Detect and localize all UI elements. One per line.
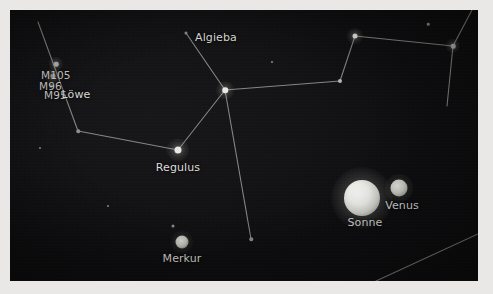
star-star-upper-mid[interactable]: [271, 61, 273, 63]
mercury-disc[interactable]: [176, 236, 189, 249]
star-node-lower-mid[interactable]: [249, 237, 253, 241]
star-zosma[interactable]: [353, 34, 358, 39]
star-star-top-right[interactable]: [427, 23, 430, 26]
star-chart-screenshot: AlgiebaM105M96M95LöweRegulusMerkurSonneV…: [0, 0, 493, 294]
star-star-lower-left[interactable]: [107, 205, 109, 207]
line-node-to-regulus: [78, 131, 178, 150]
star-denebola[interactable]: [451, 44, 456, 49]
star-star-mid-left[interactable]: [39, 147, 41, 149]
star-chort[interactable]: [338, 79, 342, 83]
star-node-lower-left[interactable]: [76, 129, 80, 133]
venus-disc[interactable]: [391, 180, 408, 197]
label-regulus: Regulus: [156, 162, 200, 174]
label-sonne: Sonne: [348, 217, 383, 229]
star-star-near-mercury[interactable]: [172, 225, 175, 228]
line-algieba-to-chort: [225, 81, 340, 90]
line-algieba-to-lower: [225, 90, 251, 239]
star-eta-leonis[interactable]: [185, 32, 188, 35]
star-algieba[interactable]: [222, 87, 228, 93]
label-algieba: Algieba: [195, 32, 237, 44]
label-venus: Venus: [385, 200, 419, 212]
line-denebola-down: [447, 46, 453, 106]
line-corner-diagonal: [376, 234, 478, 281]
label-loewe: Löwe: [62, 89, 91, 101]
label-merkur: Merkur: [163, 253, 202, 265]
line-zosma-to-denebola: [355, 36, 453, 46]
sun-disc[interactable]: [344, 180, 380, 216]
star-m105-dot[interactable]: [54, 62, 59, 67]
star-regulus[interactable]: [175, 147, 182, 154]
constellation-lines: [10, 10, 478, 281]
sky-panel[interactable]: AlgiebaM105M96M95LöweRegulusMerkurSonneV…: [10, 10, 478, 281]
